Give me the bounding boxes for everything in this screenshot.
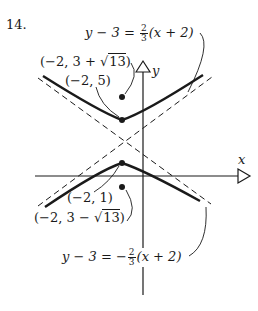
asymptote-lower-dashed	[38, 77, 212, 206]
x-axis-label: x	[238, 153, 245, 166]
leader-asymptote-lower	[189, 207, 206, 256]
label-vertex-upper: (−2, 5)	[65, 74, 111, 87]
x-axis-arrow-icon	[238, 169, 250, 183]
focus-upper-point	[119, 94, 125, 100]
y-axis-arrow-icon	[136, 61, 150, 72]
label-asymptote-upper: y − 3 = 23(x + 2)	[85, 24, 194, 43]
leader-focus-lower	[126, 190, 132, 221]
focus-lower-point	[119, 184, 125, 190]
vertex-upper-point	[119, 117, 125, 123]
y-axis-label: y	[152, 64, 159, 77]
vertex-lower-point	[119, 160, 125, 166]
label-asymptote-lower: y − 3 = −23(x + 2)	[62, 248, 181, 267]
label-focus-upper: (−2, 3 + √13)	[40, 55, 131, 68]
label-vertex-lower: (−2, 1)	[67, 191, 113, 204]
label-focus-lower: (−2, 3 − √13)	[34, 211, 125, 224]
